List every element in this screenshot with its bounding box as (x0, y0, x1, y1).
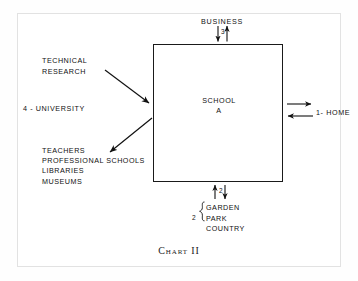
business-flow-number: 3 (221, 27, 225, 37)
outdoors-group-number: 2 (192, 213, 196, 223)
technical-research-label: TECHNICAL RESEARCH (42, 56, 87, 78)
institutions-label: TEACHERS PROFESSIONAL SCHOOLS LIBRARIES … (42, 146, 145, 187)
outdoors-list-label: GARDEN PARK COUNTRY (206, 203, 245, 235)
chart-caption: Chart II (0, 245, 358, 256)
chart-figure-page: SCHOOL A BUSINESS 3 TECHNICAL RESEARCH 4… (0, 0, 358, 281)
university-label: 4 - UNIVERSITY (23, 104, 85, 115)
home-label: 1- HOME (316, 108, 350, 119)
outdoors-flow-number: 2 (219, 186, 223, 196)
school-box: SCHOOL A (153, 44, 283, 182)
school-box-label: SCHOOL A (154, 96, 284, 117)
